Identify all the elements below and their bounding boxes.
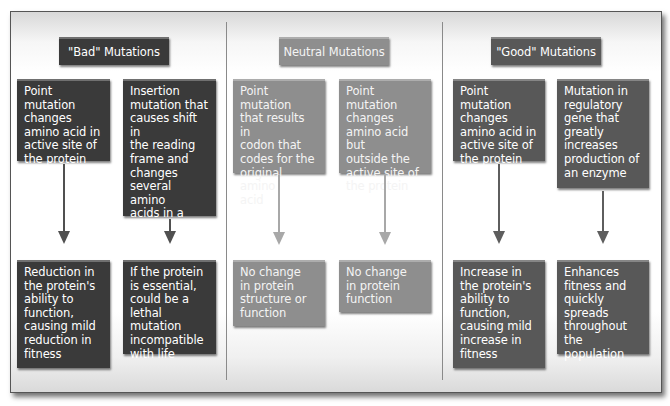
bad-cause-insertion-mutation: Insertion mutation that causes shift in …: [123, 79, 216, 216]
bad-effect-lethal: If the protein is essential, could be a …: [123, 260, 216, 354]
good-effect-increased-function: Increase in the protein's ability to fun…: [453, 260, 545, 368]
bad-effect-reduced-function: Reduction in the protein's ability to fu…: [17, 260, 110, 368]
column-separator: [226, 22, 227, 380]
neutral-cause-synonymous: Point mutation that results in codon tha…: [233, 79, 325, 173]
neutral-mutations-header: Neutral Mutations: [279, 37, 389, 65]
good-mutations-header: "Good" Mutations: [491, 37, 601, 65]
column-separator: [442, 22, 443, 380]
arrow-down-icon: [164, 219, 176, 244]
arrow-down-icon: [273, 175, 285, 245]
arrow-down-icon: [379, 175, 391, 245]
bad-cause-point-mutation: Point mutation changes amino acid in act…: [17, 79, 110, 161]
good-cause-regulatory-gene: Mutation in regulatory gene that greatly…: [557, 79, 649, 188]
neutral-effect-no-change-structure: No change in protein structure or functi…: [233, 260, 325, 326]
neutral-effect-no-change-function: No change in protein function: [339, 260, 431, 312]
arrow-down-icon: [597, 191, 609, 244]
arrow-down-icon: [58, 164, 70, 244]
bad-mutations-header: "Bad" Mutations: [59, 37, 169, 65]
good-cause-point-mutation: Point mutation changes amino acid in act…: [453, 79, 545, 161]
arrow-down-icon: [493, 164, 505, 244]
good-effect-spreads: Enhances fitness and quickly spreads thr…: [557, 260, 649, 354]
neutral-cause-outside-active-site: Point mutation changes amino acid but ou…: [339, 79, 431, 173]
